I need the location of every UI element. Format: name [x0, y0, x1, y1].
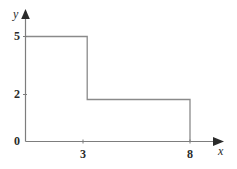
y-tick-label-2: 2	[6, 88, 20, 100]
y-axis-label: y	[13, 8, 18, 20]
x-tick-label-8: 8	[182, 148, 198, 160]
y-tick-label-0: 0	[6, 135, 20, 147]
x-tick-label-3: 3	[75, 148, 91, 160]
y-tick-label-5: 5	[6, 30, 20, 42]
y-axis-arrowhead	[21, 9, 30, 19]
step-function-curve	[26, 37, 191, 142]
plot-area	[0, 0, 237, 169]
x-axis-label: x	[218, 145, 223, 157]
step-function-figure: y x 5 2 0 3 8	[0, 0, 237, 169]
